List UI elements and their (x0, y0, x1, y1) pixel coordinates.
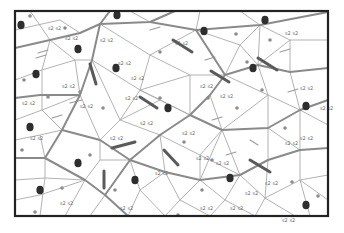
glyph-mark: s2 s2 (140, 120, 153, 126)
blob (164, 104, 171, 113)
blob (131, 176, 138, 185)
glyph-mark: s2 s2 (48, 25, 61, 31)
glyph-mark: s2 s2 (125, 95, 138, 101)
dot (268, 38, 272, 42)
glyph-mark: s2 s2 (220, 93, 233, 99)
dot (182, 140, 186, 144)
glyph-mark: s2 s2 (100, 37, 113, 43)
glyph-mark: s2 s2 (80, 103, 93, 109)
glyph-mark: s2 s2 (196, 155, 209, 161)
glyph-mark: s2 s2 (320, 105, 333, 111)
dot (88, 153, 92, 157)
glyph-mark: s2 s2 (245, 190, 258, 196)
dot (113, 188, 117, 192)
dot (46, 95, 50, 99)
glyph-mark: s2 s2 (65, 35, 78, 41)
glyph-mark: s2 s2 (22, 100, 35, 106)
glyph-mark: s2 s2 (265, 180, 278, 186)
dot (60, 186, 64, 190)
glyph-mark: s2 s2 (300, 135, 313, 141)
glyph-mark: s2 s2 (110, 135, 123, 141)
blob (32, 70, 39, 79)
blob (17, 21, 24, 30)
glyph-mark: s2 s2 (118, 60, 131, 66)
dot (78, 90, 82, 94)
blob (302, 102, 309, 111)
blob (261, 16, 268, 25)
dot (101, 106, 105, 110)
glyph-mark: s2 s2 (200, 83, 213, 89)
glyph-mark: s2 s2 (300, 85, 313, 91)
dot (260, 88, 264, 92)
dot (234, 32, 238, 36)
dot (206, 96, 210, 100)
blob (112, 64, 119, 73)
blob (74, 45, 81, 54)
dot (290, 180, 294, 184)
glyph-mark: s2 s2 (120, 205, 133, 211)
mesh-diagram: s2 s2s2 s2s2 s2s2 s2s2 s2s2 s2s2 s2s2 s2… (0, 0, 344, 233)
blob (74, 159, 81, 168)
dot (22, 78, 26, 82)
glyph-mark: s2 s2 (30, 135, 43, 141)
glyph-mark: s2 s2 (282, 217, 295, 223)
dot (283, 126, 287, 130)
glyph-mark: s2 s2 (200, 205, 213, 211)
dot (316, 194, 320, 198)
dot (158, 96, 162, 100)
dot (210, 158, 214, 162)
dot (63, 26, 67, 30)
dot (200, 188, 204, 192)
dot (28, 14, 32, 18)
blob (36, 186, 43, 195)
glyph-mark: s2 s2 (216, 160, 229, 166)
glyph-mark: s2 s2 (131, 75, 144, 81)
blob (200, 27, 207, 36)
blob (302, 201, 309, 210)
blob (26, 123, 33, 132)
glyph-mark: s2 s2 (60, 200, 73, 206)
glyph-mark: s2 s2 (62, 83, 75, 89)
dot (245, 60, 249, 64)
dot (158, 50, 162, 54)
glyph-mark: s2 s2 (230, 205, 243, 211)
glyph-mark: s2 s2 (155, 170, 168, 176)
glyph-mark: s2 s2 (285, 140, 298, 146)
dot (33, 210, 37, 214)
glyph-mark: s2 s2 (182, 130, 195, 136)
glyph-mark: s2 s2 (285, 30, 298, 36)
dot (235, 106, 239, 110)
blob (249, 64, 256, 73)
blob (226, 174, 233, 183)
dot (20, 148, 24, 152)
